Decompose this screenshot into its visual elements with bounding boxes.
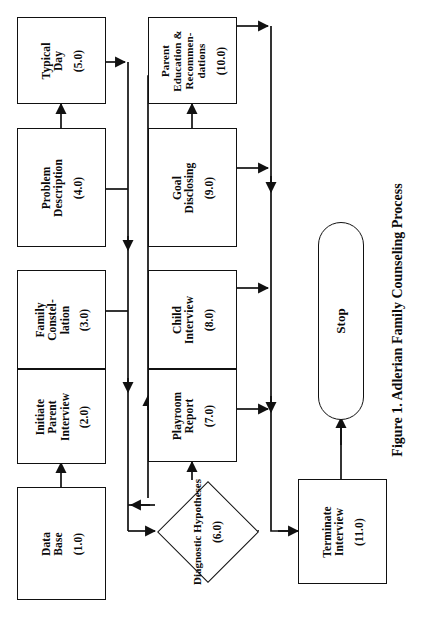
node-typical-day-code: (5.0) [71,42,83,79]
node-family-constellation-code: (3.0) [77,299,89,341]
node-data-base-label: Data Base [39,531,64,555]
node-child-interview[interactable]: Child Interview (8.0) [148,270,237,369]
node-problem-description-label: Problem Description [39,159,64,217]
node-data-base-code: (1.0) [71,531,83,555]
node-data-base[interactable]: Data Base (1.0) [17,487,106,600]
node-playroom-report[interactable]: Playroom Report (7.0) [148,369,237,462]
node-goal-disclosing[interactable]: Goal Disclosing (9.0) [148,128,237,247]
node-typical-day-label: Typical Day [39,42,64,79]
node-diagnostic-hypotheses-label: Diagnostic Hypotheses (6.0) [192,478,223,584]
node-problem-description[interactable]: Problem Description (4.0) [17,128,106,247]
node-initiate-parent-interview-code: (2.0) [77,392,89,440]
node-initiate-parent-interview-label: Initiate Parent Interview [33,392,70,440]
figure-caption: Figure 1. Adlerian Family Counseling Pro… [390,183,406,456]
node-playroom-report-code: (7.0) [202,391,214,440]
node-terminate-interview[interactable]: Terminate Interview (11.0) [298,479,387,584]
figure-container: Typical Day (5.0) Problem Description (4… [0,0,427,617]
node-parent-education-recommendations[interactable]: Parent Education & Recommen- dations (10… [148,17,237,104]
node-terminate-interview-code: (11.0) [352,506,364,558]
node-stop-label: Stop [333,308,349,333]
node-child-interview-code: (8.0) [202,295,214,343]
node-diagnostic-hypotheses[interactable]: Diagnostic Hypotheses (6.0) [155,479,260,584]
node-parent-education-recommendations-label: Parent Education & Recommen- dations [159,30,207,91]
node-diagnostic-hypotheses-code: (6.0) [211,478,223,584]
node-family-constellation-label: Family Constel- lation [33,299,70,341]
node-goal-disclosing-label: Goal Disclosing [170,162,195,213]
node-terminate-interview-label: Terminate Interview [320,506,345,558]
node-initiate-parent-interview[interactable]: Initiate Parent Interview (2.0) [17,369,106,464]
node-stop[interactable]: Stop [318,222,364,420]
node-goal-disclosing-code: (9.0) [202,162,214,213]
node-parent-education-recommendations-code: (10.0) [214,30,226,91]
node-child-interview-label: Child Interview [170,295,195,343]
node-family-constellation[interactable]: Family Constel- lation (3.0) [17,270,106,369]
node-typical-day[interactable]: Typical Day (5.0) [17,17,106,104]
node-problem-description-code: (4.0) [71,159,83,217]
trunk-right-vertical [271,26,296,531]
node-playroom-report-label: Playroom Report [170,391,195,440]
